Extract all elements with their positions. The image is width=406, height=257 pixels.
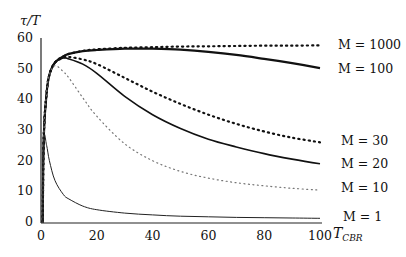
series-line-1 [43, 134, 320, 222]
y-tick-labels: 0102030405060 [17, 30, 33, 229]
y-tick-label: 40 [17, 91, 33, 106]
label-m100: M = 100 [338, 61, 393, 76]
y-tick-label: 60 [17, 30, 33, 45]
label-m1: M = 1 [343, 209, 382, 224]
x-tick-label: 20 [89, 228, 105, 243]
x-tick-label: 0 [37, 228, 45, 243]
series-line-20 [43, 58, 320, 222]
svg-text:τ/T: τ/T [20, 13, 42, 28]
label-m10: M = 10 [341, 180, 388, 195]
x-tick-label: 80 [256, 228, 272, 243]
series-group [43, 45, 320, 222]
x-tick-labels: 020406080100 [37, 228, 332, 243]
y-tick-label: 0 [25, 214, 33, 229]
label-m1000: M = 1000 [338, 37, 401, 52]
y-tick-label: 50 [17, 61, 33, 76]
label-m30: M = 30 [341, 133, 388, 148]
label-m20: M = 20 [341, 156, 388, 171]
x-tick-label: 60 [200, 228, 216, 243]
line-chart: τ/T 0102030405060 020406080100 TCBR M = … [0, 0, 406, 257]
x-tick-label: 100 [308, 228, 332, 243]
y-tick-label: 20 [17, 153, 33, 168]
svg-text:TCBR: TCBR [333, 225, 363, 243]
y-axis-label: τ/T [20, 13, 42, 28]
series-line-1000 [43, 45, 320, 222]
y-tick-label: 10 [17, 183, 33, 198]
series-labels: M = 1000 M = 100 M = 30 M = 20 M = 10 M … [338, 37, 401, 224]
y-tick-label: 30 [17, 122, 33, 137]
series-line-10 [43, 66, 320, 222]
x-tick-label: 40 [145, 228, 161, 243]
series-line-30 [43, 57, 320, 222]
x-axis-label: TCBR [333, 225, 363, 243]
